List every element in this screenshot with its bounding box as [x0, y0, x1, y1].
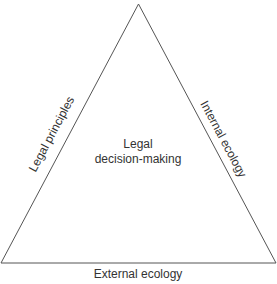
triangle-shape [1, 4, 276, 263]
center-label-line1: Legal [123, 137, 152, 151]
bottom-side-label: External ecology [94, 267, 183, 281]
center-label-line2: decision-making [95, 152, 182, 166]
triangle-diagram: Legal decision-making Legal principles I… [0, 0, 277, 284]
right-side-label: Internal ecology [197, 98, 249, 179]
